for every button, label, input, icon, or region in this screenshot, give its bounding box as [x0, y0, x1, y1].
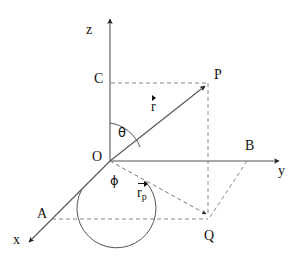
axis-x-line — [29, 161, 110, 242]
vector-label-rp: rp — [137, 180, 148, 202]
point-label-a: A — [37, 207, 47, 221]
axis-label-x: x — [13, 233, 20, 247]
vector-arrow-overbar-rp — [137, 180, 148, 186]
vector-rp-line — [110, 161, 206, 214]
axis-label-y: y — [278, 164, 285, 178]
angle-label-theta: θ — [118, 126, 126, 139]
vector-arrow-overbar-r — [151, 94, 156, 100]
dashed-b-to-q — [210, 161, 247, 217]
vector-label-r: r — [151, 94, 156, 114]
vector-label-rp-text: rp — [137, 186, 148, 202]
point-label-q: Q — [204, 229, 214, 243]
angle-label-phi: ϕ — [110, 174, 119, 187]
diagram-canvas — [0, 0, 300, 260]
spherical-coordinates-figure: z y x O C P B A Q θ ϕ r rp — [0, 0, 300, 260]
point-label-p: P — [214, 68, 222, 82]
point-label-origin: O — [92, 150, 102, 164]
point-label-b: B — [245, 139, 254, 153]
point-label-c: C — [94, 72, 103, 86]
vector-r-line — [110, 86, 205, 161]
vector-label-r-text: r — [151, 100, 156, 114]
vector-label-rp-subscript: p — [142, 191, 147, 202]
axis-label-z: z — [86, 23, 92, 37]
